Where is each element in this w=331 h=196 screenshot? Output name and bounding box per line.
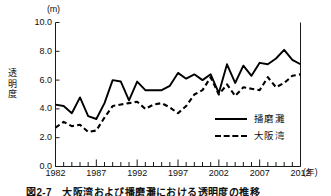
chart-figure: (m) 透 明 度 0.02.04.06.08.010.0 1982198719… xyxy=(0,0,331,196)
axis-lines xyxy=(56,23,301,167)
legend-label-osaka: 大阪湾 xyxy=(254,131,285,141)
plot-area xyxy=(0,0,331,196)
legend-item-osaka: 大阪湾 xyxy=(214,127,300,144)
figure-caption: 図2-7 大阪湾および播磨灘における透明度の推移 xyxy=(26,187,260,196)
axis-tick-marks xyxy=(56,23,301,167)
legend-line-dashed-icon xyxy=(214,131,248,141)
legend-item-harima: 播磨灘 xyxy=(214,110,300,127)
chart-legend: 播磨灘 大阪湾 xyxy=(214,110,300,144)
legend-label-harima: 播磨灘 xyxy=(254,114,285,124)
legend-line-solid-icon xyxy=(214,114,248,124)
